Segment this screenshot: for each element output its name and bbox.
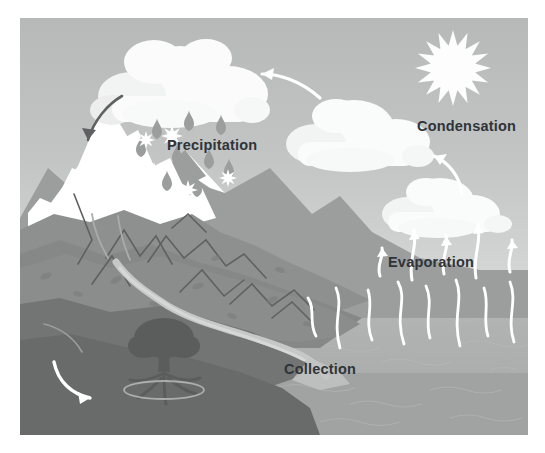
sun-disc: [430, 45, 476, 91]
water-cycle-illustration: [20, 18, 528, 435]
label-evaporation: Evaporation: [388, 254, 474, 270]
sun: [415, 30, 491, 106]
label-precipitation: Precipitation: [167, 137, 257, 153]
water-cycle-diagram-stage: Precipitation Condensation Evaporation C…: [0, 0, 545, 453]
label-condensation: Condensation: [417, 118, 516, 134]
label-collection: Collection: [284, 361, 356, 377]
